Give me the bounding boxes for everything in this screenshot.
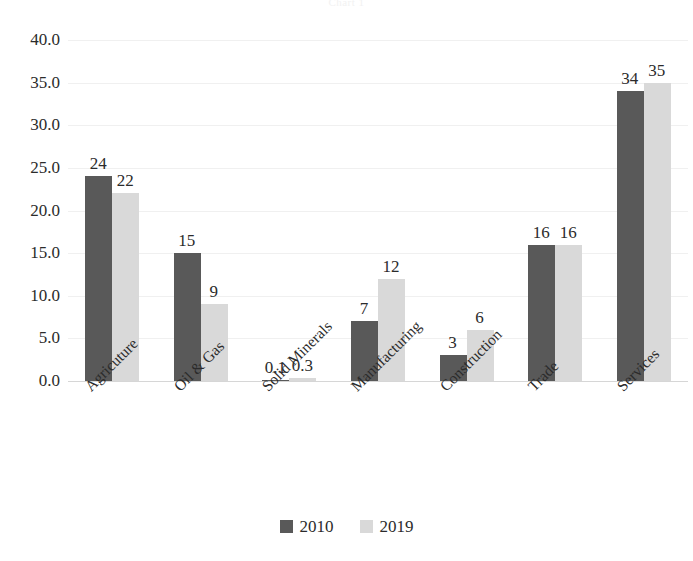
bar-group: 1616	[517, 40, 593, 381]
chart-legend: 20102019	[0, 518, 693, 535]
y-axis-tick-label: 20.0	[0, 202, 60, 219]
chart-title: Chart 1	[0, 0, 693, 8]
bar-value-label: 12	[371, 258, 411, 275]
y-axis-tick-label: 40.0	[0, 31, 60, 48]
bar-group: 159	[163, 40, 239, 381]
bar-2019-solid-minerals[interactable]	[289, 378, 316, 381]
legend-item-2019[interactable]: 2019	[360, 518, 414, 535]
bar-2019-services[interactable]	[644, 83, 671, 381]
legend-swatch-icon	[360, 520, 373, 533]
legend-label: 2010	[300, 518, 334, 535]
bar-2010-agricuture[interactable]	[85, 176, 112, 381]
plot-area: 24221590.10.37123616163435	[68, 40, 688, 381]
x-axis: AgricutureOil & GasSolid MineralsManufac…	[68, 383, 688, 503]
legend-item-2010[interactable]: 2010	[280, 518, 334, 535]
bar-value-label: 22	[105, 172, 145, 189]
bar-value-label: 24	[78, 155, 118, 172]
y-axis: 40.035.030.025.020.015.010.05.00.0	[0, 40, 60, 381]
axis-baseline	[68, 381, 688, 382]
y-axis-tick-label: 15.0	[0, 244, 60, 261]
legend-swatch-icon	[280, 520, 293, 533]
bar-group: 2422	[74, 40, 150, 381]
bar-value-label: 16	[548, 224, 588, 241]
bar-2019-trade[interactable]	[555, 245, 582, 381]
bar-chart: Chart 1 40.035.030.025.020.015.010.05.00…	[0, 0, 693, 561]
y-axis-tick-label: 35.0	[0, 74, 60, 91]
y-axis-tick-label: 0.0	[0, 372, 60, 389]
y-axis-tick-label: 5.0	[0, 329, 60, 346]
y-axis-tick-label: 30.0	[0, 116, 60, 133]
legend-label: 2019	[380, 518, 414, 535]
bar-value-label: 9	[194, 283, 234, 300]
bar-group: 3435	[606, 40, 682, 381]
bar-value-label: 15	[167, 232, 207, 249]
y-axis-tick-label: 10.0	[0, 287, 60, 304]
bar-value-label: 35	[637, 62, 677, 79]
y-axis-tick-label: 25.0	[0, 159, 60, 176]
bar-2010-services[interactable]	[617, 91, 644, 381]
bar-value-label: 6	[460, 309, 500, 326]
